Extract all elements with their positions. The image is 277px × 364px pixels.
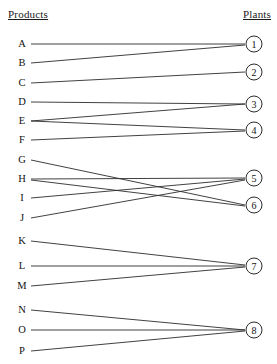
product-label-f: F	[15, 135, 29, 146]
plant-node-label-4: 4	[252, 125, 257, 135]
edge-p-to-8	[31, 331, 245, 351]
product-label-m: M	[15, 281, 29, 292]
edge-b-to-1	[31, 45, 245, 63]
edge-g-to-6	[31, 160, 245, 205]
edge-i-to-5	[31, 179, 245, 198]
edge-d-to-3	[31, 102, 245, 104]
edge-j-to-5	[31, 180, 245, 218]
product-label-g: G	[15, 155, 29, 166]
product-label-a: A	[15, 39, 29, 50]
product-label-c: C	[15, 78, 29, 89]
plant-node-4: 4	[246, 122, 263, 139]
product-label-l: L	[15, 261, 29, 272]
product-label-i: I	[15, 193, 29, 204]
product-label-d: D	[15, 97, 29, 108]
bipartite-diagram: Products Plants ABCDEFGHIJKLMNOP 1234567…	[0, 0, 277, 364]
edge-n-to-8	[31, 310, 245, 330]
plant-node-label-1: 1	[252, 39, 257, 49]
plant-node-label-7: 7	[252, 261, 257, 271]
product-label-b: B	[15, 58, 29, 69]
product-label-n: N	[15, 305, 29, 316]
edge-m-to-7	[31, 267, 245, 286]
edge-k-to-7	[31, 241, 245, 265]
product-label-k: K	[15, 236, 29, 247]
edge-h-to-5	[31, 178, 245, 179]
plant-node-label-3: 3	[252, 99, 257, 109]
plant-node-5: 5	[246, 170, 263, 187]
plant-node-label-5: 5	[252, 173, 257, 183]
edge-f-to-4	[31, 131, 245, 140]
plant-node-3: 3	[246, 96, 263, 113]
product-label-o: O	[15, 325, 29, 336]
edge-e-to-4	[31, 121, 245, 130]
product-label-j: J	[15, 213, 29, 224]
product-label-p: P	[15, 346, 29, 357]
plant-node-2: 2	[246, 64, 263, 81]
plant-node-7: 7	[246, 258, 263, 275]
edge-c-to-2	[31, 72, 245, 83]
product-label-h: H	[15, 174, 29, 185]
plant-node-1: 1	[246, 36, 263, 53]
product-label-e: E	[15, 116, 29, 127]
plant-node-label-6: 6	[252, 200, 257, 210]
plant-node-label-2: 2	[252, 67, 257, 77]
edge-layer	[0, 0, 277, 364]
plant-node-6: 6	[246, 197, 263, 214]
edge-e-to-3	[31, 104, 245, 121]
edge-h-to-6	[31, 180, 245, 206]
plant-node-label-8: 8	[252, 325, 257, 335]
plant-node-8: 8	[246, 322, 263, 339]
